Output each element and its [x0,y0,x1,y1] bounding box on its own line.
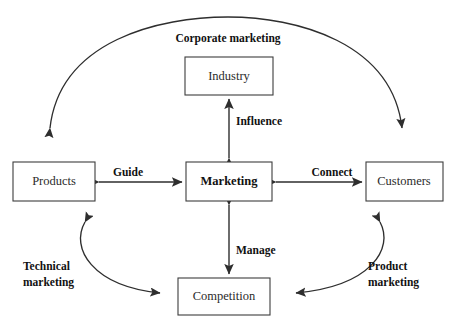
edge-label-product-marketing: Product marketing [368,260,419,289]
node-competition-label: Competition [193,289,256,303]
node-marketing[interactable]: Marketing [186,162,272,201]
edge-label-technical-marketing-line1: Technical [23,260,70,272]
edge-label-technical-marketing-line2: marketing [23,276,74,289]
edge-label-connect: Connect [312,166,353,178]
node-customers-label: Customers [377,174,431,188]
arc-technical-marketing [81,222,160,293]
edge-label-technical-marketing: Technical marketing [23,260,74,289]
node-industry[interactable]: Industry [185,57,273,95]
edge-label-manage: Manage [236,244,276,257]
node-industry-label: Industry [208,69,250,83]
edge-label-product-marketing-line1: Product [368,260,408,272]
edge-label-guide: Guide [113,166,143,178]
node-products[interactable]: Products [13,162,95,201]
node-products-label: Products [32,174,76,188]
edge-label-corporate-marketing: Corporate marketing [175,32,280,45]
node-customers[interactable]: Customers [366,162,443,201]
node-marketing-label: Marketing [201,174,259,188]
node-competition[interactable]: Competition [178,278,270,315]
marketing-relationship-diagram: Industry Products Marketing Customers Co… [0,0,450,320]
edge-label-product-marketing-line2: marketing [368,276,419,289]
edge-label-influence: Influence [236,115,282,127]
diagram-canvas: Industry Products Marketing Customers Co… [0,0,450,320]
